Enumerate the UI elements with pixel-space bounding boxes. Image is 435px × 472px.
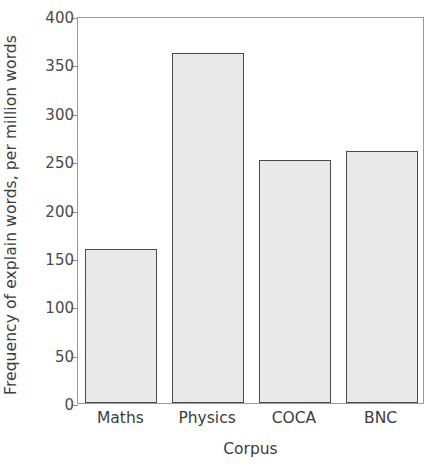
x-tick-label-physics: Physics — [164, 409, 251, 427]
plot-area: 050100150200250300350400 — [77, 17, 424, 404]
x-axis-title: Corpus — [77, 440, 424, 458]
bar-physics — [172, 53, 244, 403]
y-tick-label: 350 — [45, 57, 74, 75]
y-tick-label: 300 — [45, 106, 74, 124]
y-tick-label: 150 — [45, 251, 74, 269]
y-tick-label: 250 — [45, 154, 74, 172]
x-tick-label-bnc: BNC — [337, 409, 424, 427]
y-tick-label: 200 — [45, 203, 74, 221]
y-tick-label: 100 — [45, 299, 74, 317]
bar-bnc — [346, 151, 418, 403]
bar-maths — [85, 249, 157, 403]
bar-chart-figure: Frequency of explain words, per million … — [0, 0, 435, 472]
bar-coca — [259, 160, 331, 403]
y-axis-title: Frequency of explain words, per million … — [0, 0, 22, 430]
y-tick-label: 400 — [45, 9, 74, 27]
y-tick-label: 0 — [64, 396, 74, 414]
x-tick-label-coca: COCA — [251, 409, 338, 427]
y-tick-label: 50 — [55, 348, 74, 366]
x-tick-label-maths: Maths — [77, 409, 164, 427]
